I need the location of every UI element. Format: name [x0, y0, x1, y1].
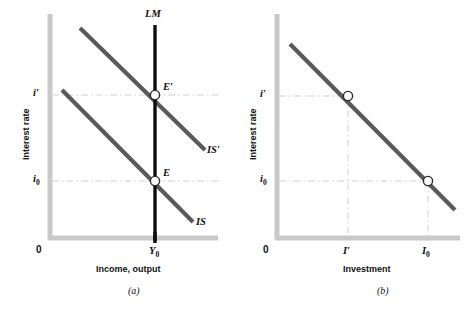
ytick-i-prime-panel-b: i′	[260, 89, 266, 100]
ytick-i0-panel-a: i0	[33, 174, 40, 187]
point-e-prime	[150, 90, 159, 99]
ytick-i0-panel-b: i0	[260, 174, 267, 187]
label-is: IS	[196, 217, 206, 228]
ylabel-panel-b: Interest rate	[249, 108, 258, 160]
label-e-prime: E′	[163, 82, 173, 93]
point-lower-equilibrium	[423, 176, 432, 185]
curve-is-prime	[80, 28, 205, 150]
origin-panel-b: 0	[263, 245, 269, 255]
label-lm: LM	[145, 9, 161, 20]
xlabel-panel-b: Investment	[343, 265, 391, 274]
caption-panel-b: (b)	[377, 286, 389, 296]
figure-container: LM IS′ IS E′ E i′ i0 Y0 0 Interest rate …	[0, 0, 475, 309]
ylabel-panel-a: Interest rate	[22, 108, 31, 160]
panel-b-investment: i′ i0 I′ I0 0 Interest rate Investment (…	[235, 0, 475, 309]
xtick-y0-label-panel-a: Y0	[149, 246, 159, 259]
label-e: E	[163, 168, 170, 179]
label-is-prime: IS′	[207, 145, 220, 156]
xlabel-panel-a: Income, output	[96, 265, 161, 274]
panel-b-plot	[235, 0, 475, 309]
panel-a-plot	[0, 0, 240, 309]
ytick-i-prime-panel-a: i′	[33, 88, 39, 99]
origin-panel-a: 0	[36, 245, 42, 255]
xtick-i-prime-panel-b: I′	[343, 246, 350, 257]
caption-panel-a: (a)	[128, 286, 140, 296]
point-upper-equilibrium	[343, 91, 352, 100]
point-e	[150, 176, 159, 185]
xtick-i0-panel-b: I0	[422, 246, 430, 259]
panel-a-is-lm: LM IS′ IS E′ E i′ i0 Y0 0 Interest rate …	[0, 0, 240, 309]
curve-is	[62, 90, 193, 222]
